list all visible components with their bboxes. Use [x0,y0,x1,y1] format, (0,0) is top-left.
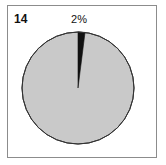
pie-slices [22,32,134,144]
pie-chart [21,31,135,145]
pie-slice-percentage-label: 2% [62,13,96,26]
figure-number-label: 14 [14,13,27,26]
figure-panel: 14 2% [0,0,166,165]
